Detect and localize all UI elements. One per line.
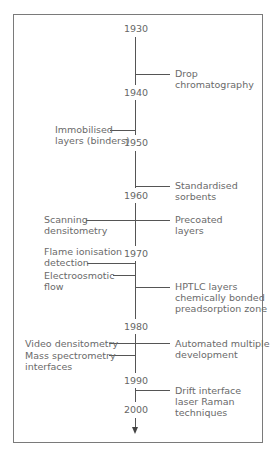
label-line: Automated multiple	[175, 338, 270, 349]
event-precoated-layers: Precoated layers	[175, 214, 223, 236]
label-line: preadsorption zone	[175, 303, 267, 314]
label-line: layers (binders)	[55, 135, 130, 146]
year-1980: 1980	[116, 321, 156, 332]
label-line: HPTLC layers	[175, 281, 267, 292]
year-1990: 1990	[116, 375, 156, 386]
label-line: interfaces	[25, 361, 116, 372]
year-2000: 2000	[116, 404, 156, 415]
event-drop-chromatography: Drop chromatography	[175, 68, 254, 90]
label-line: Electroosmotic	[44, 270, 114, 281]
year-1930: 1930	[116, 23, 156, 34]
label-line: layers	[175, 225, 223, 236]
branch-drift	[135, 390, 170, 391]
event-drift-interface: Drift interface laser Raman techniques	[175, 385, 241, 418]
event-mass-spectrometry-interfaces: Mass spectrometry interfaces	[25, 350, 116, 372]
event-hptlc: HPTLC layers chemically bonded preadsorp…	[175, 281, 267, 314]
label-line: development	[175, 349, 270, 360]
label-line: Scanning	[44, 214, 107, 225]
label-line: Drift interface	[175, 385, 241, 396]
axis-segment	[135, 261, 136, 319]
label-line: chemically bonded	[175, 292, 267, 303]
axis-segment	[135, 334, 136, 373]
event-automated-multiple-development: Automated multiple development	[175, 338, 270, 360]
event-scanning-densitometry: Scanning densitometry	[44, 214, 107, 236]
label-line: Video densitometry	[25, 338, 118, 349]
event-video-densitometry: Video densitometry	[25, 338, 118, 349]
label-line: Mass spectrometry	[25, 350, 116, 361]
label-line: flow	[44, 281, 114, 292]
label-line: Standardised	[175, 180, 238, 191]
branch-drop	[135, 74, 170, 75]
event-standardised-sorbents: Standardised sorbents	[175, 180, 238, 202]
event-flame-ionisation-detection: Flame ionisation detection	[44, 246, 122, 268]
label-line: sorbents	[175, 191, 238, 202]
label-line: Drop	[175, 68, 254, 79]
year-1960: 1960	[116, 190, 156, 201]
axis-segment	[135, 203, 136, 246]
branch-video-automated	[109, 343, 170, 344]
branch-hptlc	[135, 287, 170, 288]
label-line: chromatography	[175, 79, 254, 90]
label-line: densitometry	[44, 225, 107, 236]
label-line: detection	[44, 257, 122, 268]
branch-electroosmotic	[113, 275, 136, 276]
label-line: Immobilised	[55, 124, 130, 135]
year-1940: 1940	[116, 87, 156, 98]
label-line: laser Raman	[175, 396, 241, 407]
label-line: techniques	[175, 407, 241, 418]
event-electroosmotic-flow: Electroosmotic flow	[44, 270, 114, 292]
axis-segment	[135, 37, 136, 85]
label-line: Flame ionisation	[44, 246, 122, 257]
axis-segment	[135, 151, 136, 188]
branch-standardised	[135, 186, 170, 187]
label-line: Precoated	[175, 214, 223, 225]
arrow-down-icon	[132, 427, 138, 434]
event-immobilised-layers: Immobilised layers (binders)	[55, 124, 130, 146]
